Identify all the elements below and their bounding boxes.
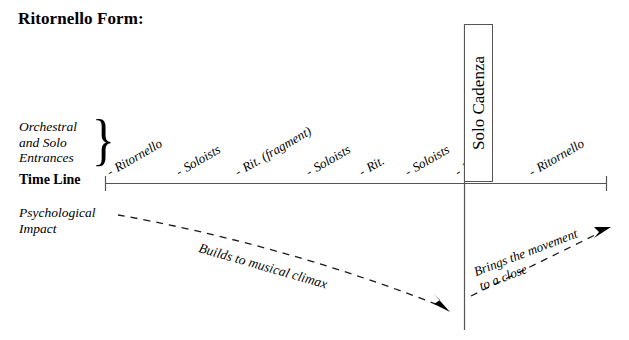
brings-to-close-arrowhead: [594, 227, 611, 238]
curly-brace-icon: }: [92, 112, 115, 168]
timeline-axis-label: Time Line: [19, 172, 81, 188]
entrances-axis-label: Orchestral and Solo Entrances: [19, 119, 77, 166]
entrances-axis-label-line-3: Entrances: [19, 150, 77, 166]
psychological-impact-label-line-2: Impact: [19, 221, 95, 237]
entrances-axis-label-line-1: Orchestral: [19, 119, 77, 135]
ritornello-form-diagram: Ritornello Form: Orchestral and Solo Ent…: [0, 0, 629, 340]
entrances-axis-label-line-2: and Solo: [19, 135, 77, 151]
psychological-impact-label-line-1: Psychological: [19, 205, 95, 221]
psychological-impact-axis-label: Psychological Impact: [19, 205, 95, 236]
builds-to-climax-arrowhead: [434, 294, 450, 312]
page-title: Ritornello Form:: [18, 9, 144, 29]
builds-to-climax-arrow: [118, 215, 443, 307]
solo-cadenza-label: Solo Cadenza: [469, 56, 489, 150]
solo-cadenza-box: Solo Cadenza: [464, 24, 493, 182]
